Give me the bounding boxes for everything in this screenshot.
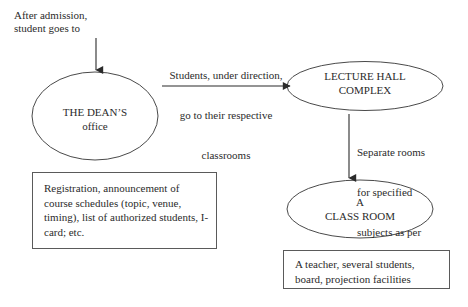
caption-after-admission: After admission, student goes to [14, 9, 87, 35]
caption-students-line-2: go to their respective [158, 109, 294, 122]
node-label-class-room-line-2: CLASS ROOM [287, 209, 433, 223]
diagram-canvas: After admission, student goes to Student… [0, 0, 468, 307]
caption-students-line-3: classrooms [158, 149, 294, 162]
caption-students-under-direction: Students, under direction, go to their r… [158, 43, 294, 188]
caption-separate-rooms-line-1: Separate rooms [357, 146, 465, 159]
node-label-lecture-hall-line-1: LECTURE HALL [287, 69, 443, 83]
node-label-class-room-line-1: A [287, 195, 433, 209]
node-label-class-room: A CLASS ROOM [287, 195, 433, 223]
note-box-classroom-contents-text: A teacher, several students, board, proj… [295, 257, 443, 286]
caption-students-line-1: Students, under direction, [158, 69, 294, 82]
caption-separate-rooms-line-3: subjects as per [357, 226, 465, 239]
node-label-deans-office: THE DEAN’S office [32, 105, 158, 133]
note-box-registration: Registration, announcement of course sch… [32, 172, 217, 249]
note-box-classroom-contents: A teacher, several students, board, proj… [283, 250, 450, 289]
node-label-deans-office-line-1: THE DEAN’S [32, 105, 158, 119]
node-label-lecture-hall-line-2: COMPLEX [287, 83, 443, 97]
node-label-deans-office-line-2: office [32, 119, 158, 133]
node-label-lecture-hall-complex: LECTURE HALL COMPLEX [287, 69, 443, 97]
note-box-registration-text: Registration, announcement of course sch… [44, 181, 210, 239]
